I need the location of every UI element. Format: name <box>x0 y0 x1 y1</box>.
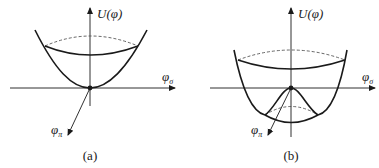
rim-back-dashed-a <box>45 36 138 46</box>
u-label-a: U(φ) <box>97 6 122 21</box>
trough-front-b <box>265 115 318 123</box>
caption-a: (a) <box>83 148 97 163</box>
caption-b: (b) <box>283 148 298 163</box>
phi-pi-label-a: φπ <box>51 122 63 139</box>
upper-rim-front-b <box>238 60 345 69</box>
phi-sigma-label-a: φσ <box>162 69 174 86</box>
outer-wall-b <box>234 50 347 115</box>
u-label-b: U(φ) <box>298 6 323 21</box>
figure-canvas: U(φ) φσ φπ (a) U(φ) φσ φπ (b) <box>0 0 379 168</box>
rim-front-a <box>45 46 138 55</box>
parabola-a <box>35 30 147 88</box>
origin-dot-a <box>88 86 93 91</box>
panel-b: U(φ) φσ φπ (b) <box>210 6 375 163</box>
phi-pi-axis-a <box>68 88 90 135</box>
panel-a: U(φ) φσ φπ (a) <box>10 6 175 163</box>
origin-dot-b <box>289 86 294 91</box>
upper-rim-back-dashed-b <box>238 50 345 60</box>
phi-pi-label-b: φπ <box>251 122 263 139</box>
phi-sigma-label-b: φσ <box>362 69 374 86</box>
